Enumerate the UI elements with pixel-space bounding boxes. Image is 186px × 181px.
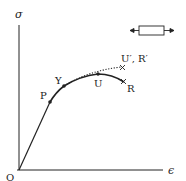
origin-label: O <box>6 172 14 181</box>
label-Y: Y <box>54 75 62 86</box>
stress-strain-diagram: σ ϵ O P Y U R U′, R′ <box>0 0 186 181</box>
y-axis-label: σ <box>15 8 23 21</box>
label-P: P <box>40 90 47 101</box>
point-Y <box>62 84 66 88</box>
label-U-prime-R-prime: U′, R′ <box>121 53 149 64</box>
point-U-prime-cross-icon <box>120 65 125 70</box>
point-P <box>48 100 52 104</box>
label-U: U <box>94 78 102 89</box>
label-R: R <box>127 83 135 94</box>
tension-bar-icon <box>130 26 174 35</box>
x-axis-label: ϵ <box>168 164 174 177</box>
elastic-line <box>19 102 50 170</box>
point-U <box>96 72 100 76</box>
